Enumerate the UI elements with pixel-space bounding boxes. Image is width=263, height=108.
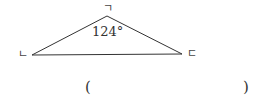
angle-label: 124° — [92, 25, 123, 38]
answer-paren-close: ) — [243, 80, 249, 95]
vertex-label-left: ㄴ — [18, 49, 28, 60]
vertex-label-top: ㄱ — [103, 3, 113, 14]
triangle-diagram — [0, 0, 263, 108]
answer-paren-open: ( — [85, 80, 91, 95]
vertex-label-right: ㄷ — [187, 48, 197, 59]
